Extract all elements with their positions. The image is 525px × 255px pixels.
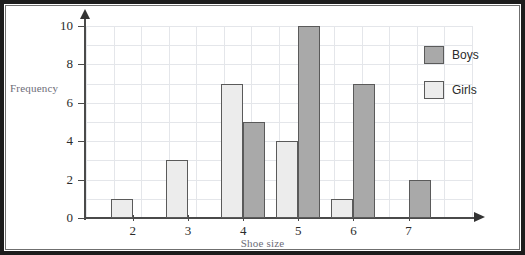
y-axis-title: Frequency [10,82,58,94]
x-axis-tick [188,215,189,221]
bar-girls-size-4 [221,84,243,218]
bar-girls-size-3 [166,160,188,218]
legend-label-girls: Girls [452,83,477,97]
x-axis-tick-label: 5 [283,224,313,237]
y-axis-tick [78,218,85,219]
x-axis-arrow-icon [474,212,485,222]
y-axis-arrow-icon [80,9,90,19]
girls-swatch-icon [424,81,444,99]
y-axis-tick [78,103,85,104]
bar-girls-size-5 [276,141,298,218]
boys-swatch-icon [424,46,444,64]
gridline-vertical [86,26,87,218]
x-axis-tick-label: 7 [394,224,424,237]
y-axis-line [84,18,86,220]
x-axis-tick-label: 4 [228,224,258,237]
gridline-vertical [196,26,197,218]
bar-girls-size-2 [111,199,133,218]
gridline-vertical [444,26,445,218]
gridline-vertical [141,26,142,218]
y-axis-tick-label: 6 [45,96,73,109]
chart-page: 0246810234567 Frequency Shoe size Boys G… [0,0,525,255]
x-axis-tick-label: 6 [338,224,368,237]
bar-boys-size-5 [298,26,320,218]
y-axis-tick-label: 0 [45,211,73,224]
gridline-vertical [334,26,335,218]
x-axis-tick [133,215,134,221]
y-axis-tick [78,180,85,181]
y-axis-tick [78,141,85,142]
bar-boys-size-7 [409,180,431,218]
y-axis-tick-label: 2 [45,173,73,186]
bar-boys-size-4 [243,122,265,218]
y-axis-tick-label: 8 [45,57,73,70]
gridline-vertical [389,26,390,218]
bar-girls-size-6 [331,199,353,218]
x-axis-title: Shoe size [0,237,525,249]
gridline-vertical [114,26,115,218]
x-axis-tick-label: 3 [173,224,203,237]
bar-boys-size-6 [353,84,375,218]
y-axis-tick-label: 10 [45,19,73,32]
y-axis-tick-label: 4 [45,134,73,147]
x-axis-tick-label: 2 [118,224,148,237]
legend-label-boys: Boys [452,48,479,62]
y-axis-tick [78,64,85,65]
y-axis-tick [78,26,85,27]
